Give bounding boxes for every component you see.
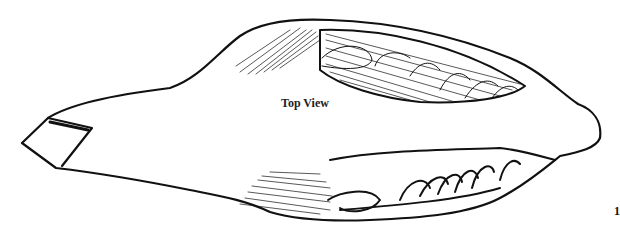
upper-strokes — [236, 28, 520, 102]
body-outline — [22, 20, 600, 221]
lower-ridges — [328, 148, 555, 211]
figure-number: 1 — [614, 204, 620, 219]
lower-strokes — [240, 172, 332, 214]
top-view-label: Top View — [281, 96, 329, 111]
top-view-sketch — [0, 0, 620, 229]
